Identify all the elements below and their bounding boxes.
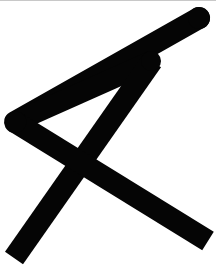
image-canvas xyxy=(0,0,216,266)
glyph-drawing xyxy=(0,0,216,266)
inner-apex-joint xyxy=(141,51,161,71)
top-edge-rule xyxy=(0,0,216,1)
left-vertex-joint xyxy=(6,112,27,133)
glyph-strokes xyxy=(6,7,211,258)
top-right-cap-joint xyxy=(188,7,210,29)
